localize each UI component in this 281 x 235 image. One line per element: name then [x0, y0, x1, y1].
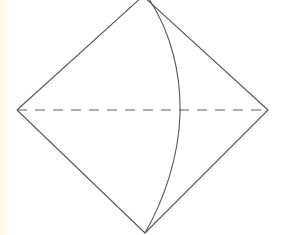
geometric-diagram — [0, 0, 281, 235]
figure-canvas — [0, 0, 281, 235]
curved-edge-arc — [145, 0, 180, 233]
rhombus-outline — [17, 0, 268, 233]
